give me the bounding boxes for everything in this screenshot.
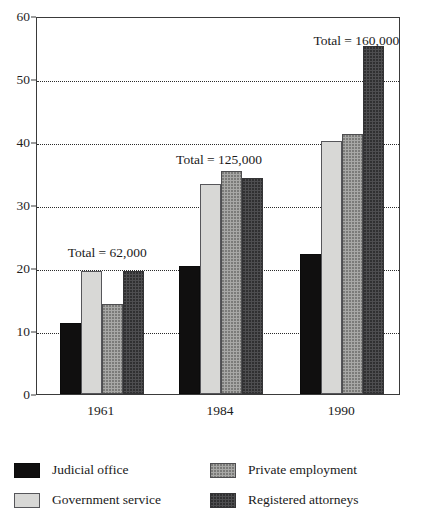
bar[interactable] bbox=[221, 171, 242, 394]
y-axis: 0102030405060 bbox=[0, 0, 36, 521]
bar[interactable] bbox=[81, 271, 102, 394]
bar[interactable] bbox=[60, 323, 81, 394]
legend-swatch bbox=[210, 463, 236, 478]
bar-group bbox=[300, 18, 384, 394]
legend-swatch bbox=[210, 493, 236, 508]
bar[interactable] bbox=[363, 46, 384, 394]
bar[interactable] bbox=[300, 254, 321, 394]
y-axis-tick-label: 0 bbox=[23, 388, 30, 402]
total-annotation: Total = 160,000 bbox=[313, 34, 399, 48]
bar[interactable] bbox=[179, 266, 200, 394]
bar[interactable] bbox=[200, 184, 221, 394]
legend-item[interactable]: Private employment bbox=[210, 460, 357, 480]
bar[interactable] bbox=[123, 271, 144, 394]
y-axis-tick-label: 20 bbox=[17, 262, 31, 276]
total-annotation: Total = 125,000 bbox=[176, 153, 262, 167]
legend-item-label: Government service bbox=[52, 493, 161, 507]
legend-item[interactable]: Registered attorneys bbox=[210, 490, 359, 510]
bar-group bbox=[179, 18, 263, 394]
bar-chart-figure: 0102030405060 Total = 62,000Total = 125,… bbox=[0, 0, 422, 521]
x-axis-tick-label: 1961 bbox=[87, 404, 114, 418]
y-axis-tick-label: 50 bbox=[17, 73, 31, 87]
bar-group bbox=[60, 18, 144, 394]
y-axis-tick-label: 30 bbox=[17, 199, 31, 213]
x-axis-tick-label: 1990 bbox=[328, 404, 355, 418]
y-axis-tick-label: 10 bbox=[17, 325, 31, 339]
bar[interactable] bbox=[321, 141, 342, 394]
plot-area: Total = 62,000Total = 125,000Total = 160… bbox=[36, 17, 400, 395]
bar[interactable] bbox=[242, 178, 263, 394]
x-axis-tick-label: 1984 bbox=[207, 404, 234, 418]
x-axis: 196119841990 bbox=[36, 398, 400, 422]
legend-item[interactable]: Judicial office bbox=[14, 460, 129, 480]
legend-item[interactable]: Government service bbox=[14, 490, 161, 510]
y-axis-tick-label: 40 bbox=[17, 136, 31, 150]
legend-swatch bbox=[14, 493, 40, 508]
legend-item-label: Registered attorneys bbox=[248, 493, 359, 507]
legend-item-label: Judicial office bbox=[52, 463, 129, 477]
legend-swatch bbox=[14, 463, 40, 478]
chart-legend: Judicial officePrivate employmentGovernm… bbox=[14, 460, 408, 516]
bar[interactable] bbox=[102, 304, 123, 394]
y-axis-tick-label: 60 bbox=[17, 10, 31, 24]
total-annotation: Total = 62,000 bbox=[68, 246, 147, 260]
legend-item-label: Private employment bbox=[248, 463, 357, 477]
bar[interactable] bbox=[342, 134, 363, 394]
